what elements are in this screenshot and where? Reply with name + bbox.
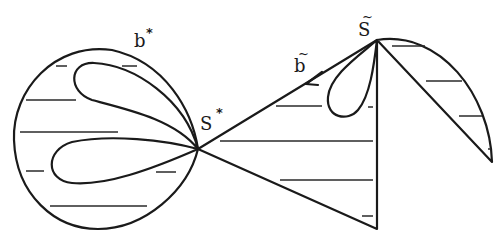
label-b-star: b: [134, 32, 146, 50]
label-s-star-marker: *: [216, 106, 223, 119]
label-b-tilde: b: [294, 57, 306, 75]
right-half-lens: [377, 39, 492, 162]
diagram-canvas: [0, 0, 501, 239]
label-s-star: S: [200, 115, 212, 133]
label-b-star-marker: *: [146, 26, 153, 39]
hatching-left: [20, 66, 176, 206]
hatching-right-lens: [392, 46, 491, 149]
triangle-wedge: [198, 40, 377, 229]
lower-petal-loop: [52, 138, 198, 183]
small-loop: [328, 40, 377, 117]
upper-petal-loop: [74, 63, 198, 149]
label-s-tilde: S: [358, 21, 370, 39]
arrow-head-icon: [306, 72, 322, 85]
